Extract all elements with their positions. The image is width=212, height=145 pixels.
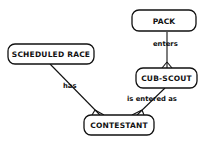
relationship-enters	[162, 32, 172, 68]
relationship-has	[50, 64, 104, 115]
entity-contestant-label: CONTESTANT	[90, 121, 148, 130]
er-diagram: enters has is entered as PACK CUB-SCOUT …	[0, 0, 212, 145]
label-enters: enters	[153, 40, 178, 48]
label-is-entered-as: is entered as	[127, 95, 177, 103]
entity-pack[interactable]: PACK	[132, 10, 196, 31]
entity-pack-label: PACK	[153, 17, 177, 26]
entity-scheduled-race-label: SCHEDULED RACE	[12, 50, 90, 59]
entity-cub-scout-label: CUB-SCOUT	[141, 74, 192, 83]
entity-cub-scout[interactable]: CUB-SCOUT	[136, 68, 197, 88]
label-has: has	[63, 82, 76, 90]
entity-contestant[interactable]: CONTESTANT	[84, 115, 154, 135]
entity-scheduled-race[interactable]: SCHEDULED RACE	[8, 44, 94, 64]
